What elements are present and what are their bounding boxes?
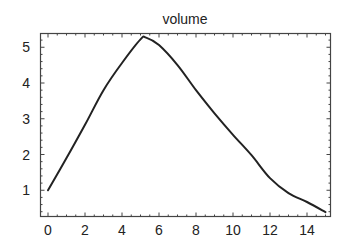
x-tick-label: 0: [44, 222, 52, 238]
x-tick-label: 2: [81, 222, 89, 238]
x-tick-label: 4: [118, 222, 126, 238]
x-tick-label: 14: [299, 222, 315, 238]
x-tick-label: 6: [155, 222, 163, 238]
line-chart: volume 02468101214 12345: [0, 0, 345, 243]
y-axis-tick-labels: 12345: [22, 39, 30, 198]
x-tick-label: 12: [262, 222, 278, 238]
y-tick-label: 4: [22, 75, 30, 91]
y-tick-label: 1: [22, 182, 30, 198]
volume-series-line: [48, 37, 326, 213]
x-tick-label: 10: [225, 222, 241, 238]
x-tick-label: 8: [192, 222, 200, 238]
chart-title: volume: [162, 11, 207, 27]
x-axis-tick-labels: 02468101214: [44, 222, 315, 238]
y-tick-label: 5: [22, 39, 30, 55]
chart-canvas: volume 02468101214 12345: [0, 0, 345, 243]
y-tick-label: 3: [22, 111, 30, 127]
y-tick-label: 2: [22, 147, 30, 163]
